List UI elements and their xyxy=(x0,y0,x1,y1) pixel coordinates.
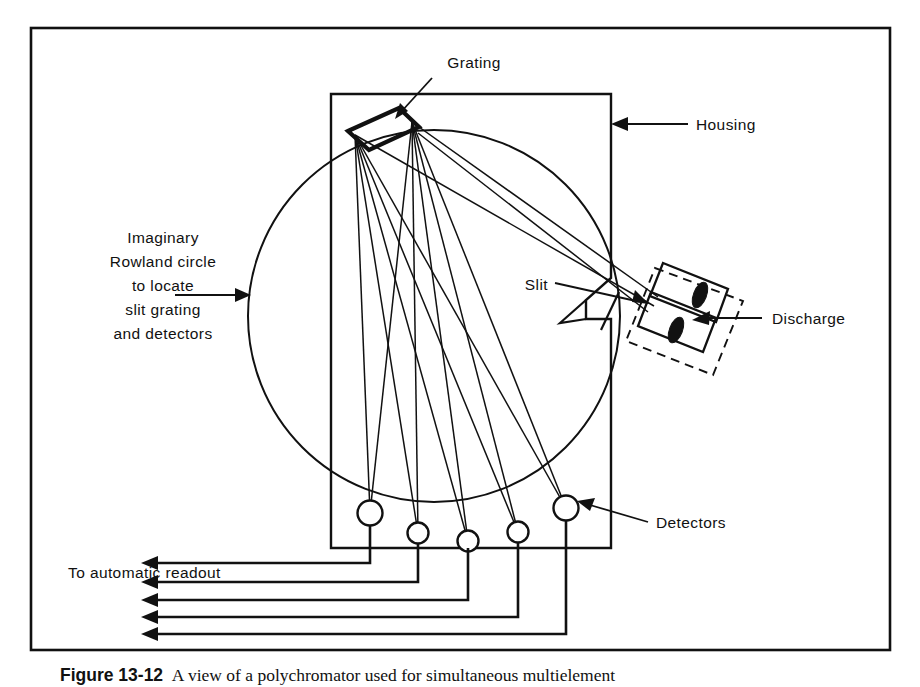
ray-incident-1 xyxy=(412,122,658,297)
ray-incident-2 xyxy=(355,135,654,306)
ray-b2 xyxy=(412,122,418,533)
figure-caption-number: Figure 13-12 xyxy=(60,665,163,685)
detector-2 xyxy=(408,523,429,544)
readout-arrowhead-5 xyxy=(141,627,158,641)
ray-a4 xyxy=(355,135,518,532)
detector-4 xyxy=(508,522,529,543)
figure-caption: Figure 13-12 A view of a polychromator u… xyxy=(60,664,900,687)
rowland-circle xyxy=(248,130,620,502)
detector-5 xyxy=(554,496,579,521)
ray-bundle xyxy=(355,122,658,541)
detectors-leader xyxy=(590,505,648,522)
ray-a3 xyxy=(355,135,468,541)
readout-arrowhead-4 xyxy=(141,610,158,624)
rowland-label-line-1: Imaginary xyxy=(127,229,199,246)
readout-wire-1 xyxy=(149,525,370,563)
detectors-arrowhead xyxy=(577,498,595,511)
housing-label: Housing xyxy=(696,116,756,133)
detector-1 xyxy=(358,501,383,526)
detector-group xyxy=(358,496,579,552)
ray-a5 xyxy=(355,135,566,508)
housing-arrowhead xyxy=(611,117,628,131)
readout-label: To automatic readout xyxy=(68,564,221,581)
discharge-tube-upper xyxy=(650,263,728,322)
rowland-label-line-4: slit grating xyxy=(125,301,200,318)
discharge-envelope xyxy=(626,268,743,375)
readout-arrowhead-3 xyxy=(141,593,158,607)
ray-b5 xyxy=(412,122,566,508)
ray-a2 xyxy=(355,135,418,533)
figure-caption-body: A view of a polychromator used for simul… xyxy=(172,665,615,685)
ray-b3 xyxy=(412,122,468,541)
figure-caption-spacer xyxy=(163,665,172,685)
housing-notch-detail xyxy=(560,300,586,323)
ray-b4 xyxy=(412,122,518,532)
rowland-label-line-5: and detectors xyxy=(113,325,212,342)
grating-label: Grating xyxy=(447,54,501,71)
rowland-label-line-3: to locate xyxy=(132,277,194,294)
rowland-circle-label: Imaginary Rowland circle to locate slit … xyxy=(110,229,216,342)
discharge-label: Discharge xyxy=(772,310,845,327)
discharge-electrode-1 xyxy=(689,280,711,310)
ray-a1 xyxy=(355,135,370,513)
slit-arrowhead xyxy=(632,290,649,304)
detectors-label: Detectors xyxy=(656,514,726,531)
slit-label: Slit xyxy=(525,276,548,293)
rowland-label-line-2: Rowland circle xyxy=(110,253,216,270)
discharge-electrode-2 xyxy=(665,315,687,345)
slit-leader xyxy=(555,283,636,301)
